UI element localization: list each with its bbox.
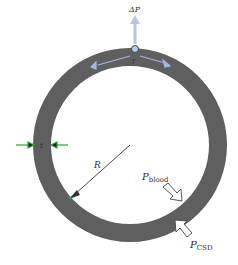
delta-p-arrow-icon (130, 15, 140, 44)
p-csd-label: PCSD (189, 239, 213, 252)
radius-arrow-icon (69, 145, 131, 200)
p-csd-arrow-icon (175, 220, 192, 237)
delta-p-label: ΔP (128, 5, 141, 14)
vessel-cross-section-diagram: ΔP T t R Pblood PCSD (0, 0, 238, 265)
p-blood-arrow-icon (163, 183, 182, 201)
radius-label: R (93, 160, 101, 170)
p-blood-label: Pblood (141, 171, 169, 184)
top-node-icon (132, 46, 139, 53)
